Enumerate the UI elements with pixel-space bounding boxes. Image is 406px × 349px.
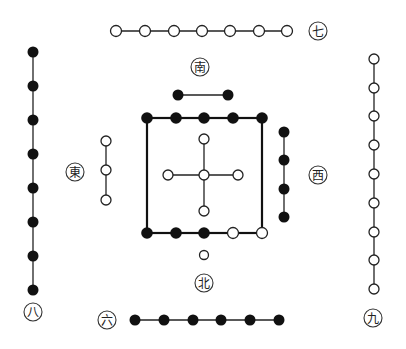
hetu-diagram: 七 南 東 西 北 八 六 九	[0, 0, 406, 349]
label-west: 西	[312, 169, 324, 183]
label-north: 北	[198, 277, 210, 291]
diagram-canvas: 七 南 東 西 北 八 六 九	[0, 0, 406, 349]
label-eight: 八	[27, 306, 39, 320]
nine-column	[369, 54, 379, 294]
label-east: 東	[69, 166, 81, 180]
label-seven: 七	[312, 25, 324, 39]
label-six: 六	[101, 314, 113, 328]
label-nine: 九	[367, 312, 379, 326]
east-column	[101, 136, 111, 205]
label-south: 南	[194, 60, 206, 75]
north-dot	[200, 251, 209, 260]
